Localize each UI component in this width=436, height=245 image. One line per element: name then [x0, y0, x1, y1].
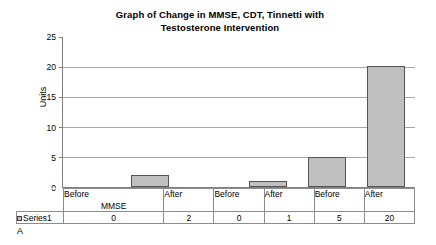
legend-series-label: Series1: [23, 213, 52, 223]
group-label-mmse: MMSE: [64, 201, 163, 211]
table-cell-value-0: 0: [64, 212, 164, 224]
figure-caption: A: [17, 226, 23, 236]
category-label-after-mmse: After: [164, 189, 213, 199]
chart-title-line-2: Testosterone Intervention: [60, 21, 380, 34]
table-cell-value-4: 5: [314, 212, 364, 224]
y-tick-mark-15: [59, 97, 62, 98]
y-tick-label-20: 20: [47, 62, 56, 72]
legend-series-cell: Series1: [17, 212, 64, 224]
table-row-series1: Series1 0 2 0 1 5 20: [17, 212, 415, 224]
y-tick-label-25: 25: [47, 32, 56, 42]
y-tick-mark-25: [59, 37, 62, 38]
category-group-cell-1: Before: [214, 189, 264, 212]
y-tick-mark-10: [59, 127, 62, 128]
legend-swatch-icon: [17, 216, 22, 221]
gridline-10: [63, 127, 415, 128]
chart-title-line-1: Graph of Change in MMSE, CDT, Tinnetti w…: [116, 9, 324, 20]
y-tick-mark-5: [59, 157, 62, 158]
category-cell-after-tinetti: After: [364, 189, 414, 212]
y-tick-label-5: 5: [51, 153, 56, 163]
category-group-cell-2: Before: [314, 189, 364, 212]
category-group-cell-0: Before MMSE: [64, 189, 164, 212]
y-tick-label-15: 15: [47, 92, 56, 102]
chart-data-table: Before MMSE After Before After Before Af…: [16, 188, 415, 224]
chart-title: Graph of Change in MMSE, CDT, Tinnetti w…: [60, 8, 380, 34]
category-cell-after-cdt: After: [264, 189, 314, 212]
table-cell-value-1: 2: [164, 212, 214, 224]
plot-area: 0510152025: [62, 37, 415, 188]
gridline-15: [63, 97, 415, 98]
legend-spacer-cell: [17, 189, 64, 212]
gridline-5: [63, 157, 415, 158]
table-cell-value-2: 0: [214, 212, 264, 224]
table-cell-value-3: 1: [264, 212, 314, 224]
y-tick-mark-20: [59, 67, 62, 68]
table-row-categories: Before MMSE After Before After Before Af…: [17, 189, 415, 212]
gridline-20: [63, 67, 415, 68]
category-label-after-cdt: After: [265, 189, 314, 199]
category-label-before-mmse: Before: [64, 189, 163, 199]
category-label-before-cdt: Before: [214, 189, 263, 199]
y-tick-label-10: 10: [47, 123, 56, 133]
y-axis-line: [62, 37, 63, 188]
bar-after-cdt: [249, 181, 287, 187]
table-cell-value-5: 20: [364, 212, 414, 224]
category-label-after-tinetti: After: [365, 189, 414, 199]
bar-after-tinetti: [367, 66, 405, 187]
bar-before-tinetti: [308, 157, 346, 187]
category-label-before-tinetti: Before: [315, 189, 364, 199]
category-cell-after-mmse: After: [164, 189, 214, 212]
bar-after-mmse: [131, 175, 169, 187]
chart-figure: Graph of Change in MMSE, CDT, Tinnetti w…: [0, 0, 436, 245]
